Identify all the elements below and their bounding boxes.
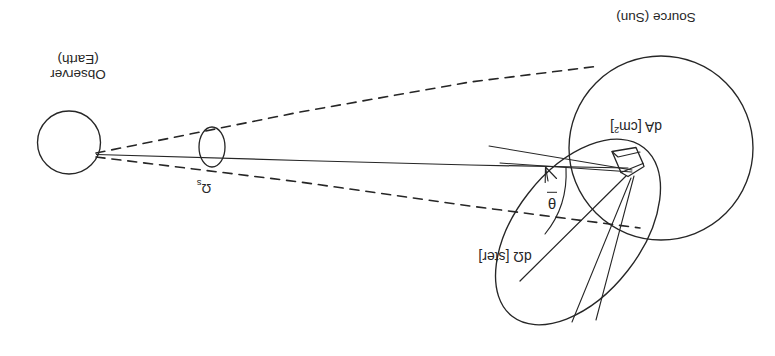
observer-earth-circle [38, 111, 101, 174]
cone-ray-lower [596, 176, 634, 320]
area-element-label-exponent: 2 [614, 125, 619, 135]
source-sun-label: Source (Sun) [566, 10, 746, 25]
area-element-label: dA [cm2] [580, 118, 692, 135]
source-label-text: Source (Sun) [616, 10, 696, 25]
cone-edge-dashed-upper [96, 66, 600, 153]
source-sun-circle [569, 56, 753, 240]
source-solid-angle-subscript: s [197, 178, 202, 188]
observer-earth-label: Observer (Earth) [30, 52, 126, 82]
source-solid-angle-symbol: Ω [201, 181, 211, 196]
solid-angle-cone-ellipse [462, 109, 693, 355]
solid-angle-element-label: dΩ [ster] [440, 248, 570, 264]
observer-label-line2: (Earth) [57, 52, 98, 67]
theta-angle-symbol: θ [547, 192, 557, 211]
area-element-patch-edge [612, 152, 640, 158]
area-element-label-bracket: ] [610, 119, 614, 135]
solid-angle-element-label-text: dΩ [ster] [478, 249, 531, 265]
theta-angle-label: θ [535, 192, 569, 211]
source-solid-angle-ellipse [199, 127, 225, 167]
observer-label-line1: Observer [50, 67, 106, 82]
source-solid-angle-label: Ωs [180, 178, 228, 195]
figure-canvas: Observer (Earth) Source (Sun) dA [cm2] d… [0, 0, 775, 356]
area-element-label-text: dA [cm [619, 119, 662, 135]
